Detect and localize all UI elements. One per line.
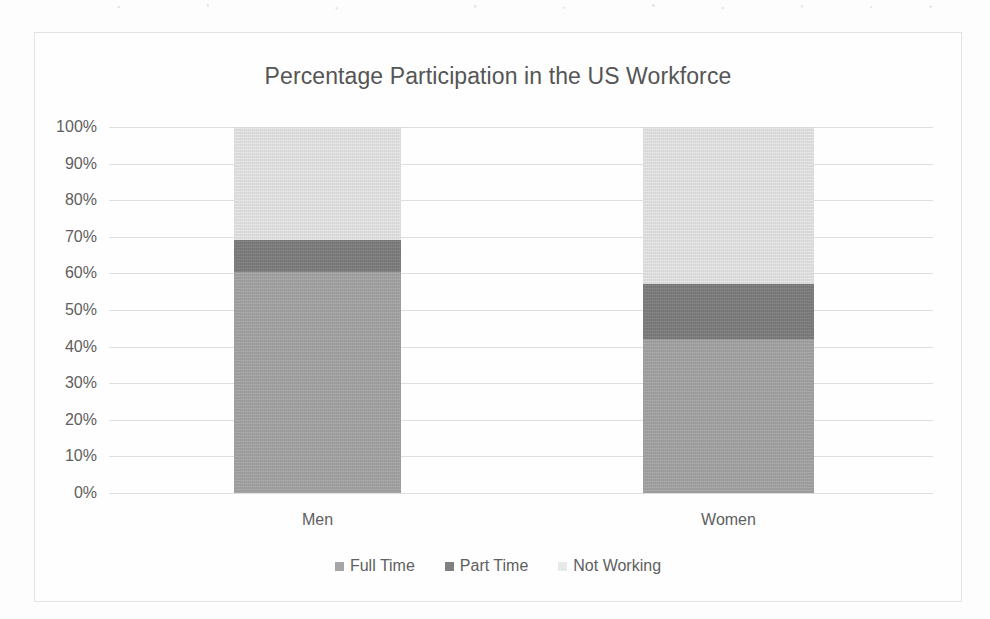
y-axis-label-60: 60% — [65, 264, 97, 282]
chart-title: Percentage Participation in the US Workf… — [35, 63, 961, 90]
scan-edge-artifacts — [0, 0, 990, 14]
y-axis-label-50: 50% — [65, 301, 97, 319]
y-axis-label-0: 0% — [74, 484, 97, 502]
y-axis-label-40: 40% — [65, 338, 97, 356]
bar-segment-women-part-time[interactable] — [643, 284, 814, 339]
bar-segment-men-not-working[interactable] — [234, 127, 401, 240]
plot-area: 100% 90% 80% 70% 60% 50% 40% 30% 20% 10% — [109, 127, 933, 493]
y-axis-label-30: 30% — [65, 374, 97, 392]
y-axis-label-20: 20% — [65, 411, 97, 429]
bar-segment-women-full-time[interactable] — [643, 339, 814, 493]
bar-stack-men[interactable]: Men — [234, 127, 401, 493]
legend-label-part-time: Part Time — [460, 557, 528, 575]
y-axis-label-10: 10% — [65, 447, 97, 465]
bar-stack-women[interactable]: Women — [643, 127, 814, 493]
y-axis-label-100: 100% — [56, 118, 97, 136]
legend-swatch-icon-not-working — [558, 562, 567, 571]
gridline-0: 0% — [109, 493, 933, 494]
legend-item-full-time[interactable]: Full Time — [335, 557, 415, 575]
y-axis-label-70: 70% — [65, 228, 97, 246]
legend-item-not-working[interactable]: Not Working — [558, 557, 661, 575]
x-axis-label-women: Women — [643, 511, 814, 529]
chart-legend: Full Time Part Time Not Working — [35, 557, 961, 575]
x-axis-label-men: Men — [234, 511, 401, 529]
bar-segment-men-part-time[interactable] — [234, 240, 401, 271]
chart-frame: Percentage Participation in the US Workf… — [34, 32, 962, 602]
bar-segment-men-full-time[interactable] — [234, 272, 401, 493]
legend-swatch-icon-full-time — [335, 562, 344, 571]
y-axis-label-80: 80% — [65, 191, 97, 209]
legend-label-not-working: Not Working — [573, 557, 661, 575]
legend-label-full-time: Full Time — [350, 557, 415, 575]
legend-swatch-icon-part-time — [445, 562, 454, 571]
bar-segment-women-not-working[interactable] — [643, 127, 814, 284]
y-axis-label-90: 90% — [65, 155, 97, 173]
legend-item-part-time[interactable]: Part Time — [445, 557, 528, 575]
